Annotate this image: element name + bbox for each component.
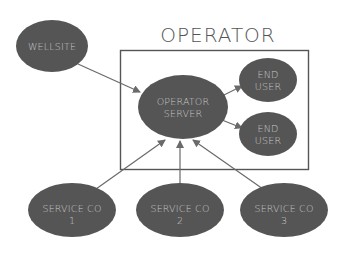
diagram-canvas: OPERATOR WELLSITE OPERATOR SERVER END US… [0,0,347,255]
node-service-co-2: SERVICE CO 2 [136,183,224,237]
node-service-co-2-label-line1: SERVICE CO [150,203,209,214]
node-end-user-1: END USER [239,58,297,102]
node-service-co-1-label-line1: SERVICE CO [42,203,101,214]
node-operator-server-label-line2: SERVER [164,108,203,119]
node-end-user-1-label-line1: END [257,69,278,80]
edge-operator-server-to-end-user-2 [222,120,242,128]
node-service-co-3: SERVICE CO 3 [240,183,328,237]
operator-group-title: OPERATOR [160,23,276,47]
node-service-co-1: SERVICE CO 1 [28,183,116,237]
edge-service-co-1-to-operator-server [96,140,165,189]
node-service-co-3-label-line1: SERVICE CO [254,203,313,214]
node-end-user-2-shape [239,112,297,156]
node-operator-server: OPERATOR SERVER [138,75,228,139]
node-service-co-2-label-line2: 2 [177,215,183,226]
node-end-user-2: END USER [239,112,297,156]
node-operator-server-label-line1: OPERATOR [157,96,210,107]
node-end-user-2-label-line2: USER [255,135,282,146]
node-end-user-2-label-line1: END [257,123,278,134]
edge-operator-server-to-end-user-1 [222,86,242,96]
node-wellsite-label: WELLSITE [28,41,76,52]
node-service-co-3-label-line2: 3 [281,215,287,226]
node-operator-server-shape [138,75,228,139]
node-wellsite: WELLSITE [16,20,88,72]
node-service-co-1-label-line2: 1 [69,215,75,226]
node-end-user-1-label-line2: USER [255,81,282,92]
edge-wellsite-to-operator-server [78,64,140,92]
data-flow-diagram: OPERATOR WELLSITE OPERATOR SERVER END US… [0,0,347,255]
node-end-user-1-shape [239,58,297,102]
